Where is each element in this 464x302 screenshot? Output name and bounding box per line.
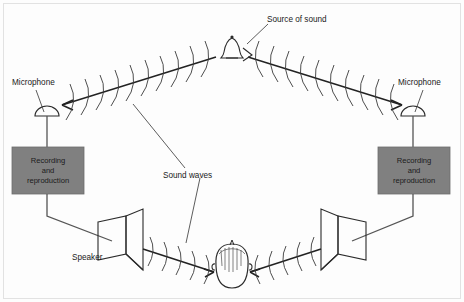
sound-reproduction-diagram: Source of sound Microphone Microphone Re… bbox=[0, 0, 464, 302]
recording-unit-left-line2: and bbox=[42, 166, 55, 175]
leader-microphone-left bbox=[36, 90, 44, 112]
ray-right-speaker-to-listener bbox=[250, 237, 321, 284]
recording-unit-left: Recording and reproduction bbox=[12, 147, 84, 194]
recording-unit-right-line3: reproduction bbox=[393, 176, 435, 185]
wavefront-arcs-right-upper bbox=[255, 41, 398, 120]
recording-unit-right-line1: Recording bbox=[397, 156, 432, 165]
label-sound-waves: Sound waves bbox=[163, 171, 212, 180]
wire-left-unit-to-speaker bbox=[47, 194, 112, 241]
wire-right-unit-to-speaker bbox=[352, 194, 413, 241]
ray-source-to-right-microphone bbox=[248, 41, 402, 120]
recording-unit-right: Recording and reproduction bbox=[378, 147, 450, 194]
listener-head-icon bbox=[212, 240, 252, 288]
source-of-sound-bell-icon bbox=[221, 35, 252, 61]
label-source-of-sound: Source of sound bbox=[267, 15, 327, 24]
recording-unit-right-line2: and bbox=[408, 166, 421, 175]
microphone-left-icon bbox=[35, 106, 59, 147]
ray-source-to-left-microphone bbox=[62, 41, 216, 120]
leader-sound-waves-upper bbox=[133, 104, 185, 168]
leader-sound-waves-lower bbox=[186, 178, 200, 243]
recording-unit-left-line3: reproduction bbox=[27, 176, 69, 185]
wavefront-arcs-left-upper bbox=[66, 41, 209, 120]
recording-unit-left-line1: Recording bbox=[31, 156, 66, 165]
label-microphone-right: Microphone bbox=[398, 78, 441, 87]
leader-source-of-sound bbox=[247, 24, 268, 44]
speaker-left-icon bbox=[98, 209, 143, 270]
label-microphone-left: Microphone bbox=[12, 78, 55, 87]
speaker-right-icon bbox=[321, 209, 366, 270]
ray-left-speaker-to-listener bbox=[143, 237, 214, 284]
label-speaker: Speaker bbox=[72, 253, 103, 262]
microphone-right-icon bbox=[401, 106, 425, 147]
